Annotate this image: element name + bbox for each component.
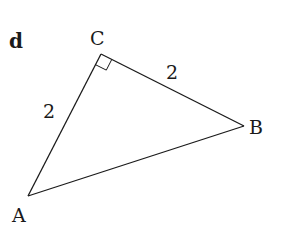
vertex-label-c: C	[90, 27, 105, 49]
side-label-ac: 2	[43, 100, 55, 122]
triangle-diagram: d C B A 2 2	[0, 0, 281, 241]
panel-label: d	[9, 29, 23, 53]
vertex-label-b: B	[249, 116, 263, 138]
vertex-label-a: A	[11, 204, 26, 226]
side-ab	[28, 126, 244, 196]
side-ac	[28, 54, 101, 196]
side-label-cb: 2	[166, 61, 178, 83]
